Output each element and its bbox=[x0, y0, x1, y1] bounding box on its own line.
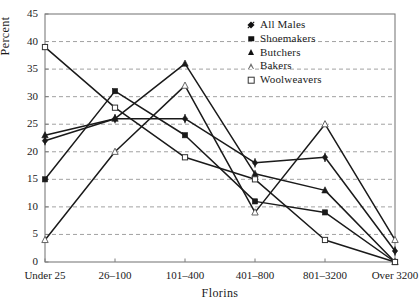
series-markers bbox=[42, 82, 398, 243]
open-square-icon bbox=[245, 74, 257, 86]
filled-triangle-icon bbox=[245, 46, 257, 58]
filled-diamond-icon bbox=[245, 19, 257, 31]
legend-item-label: Butchers bbox=[260, 46, 301, 60]
legend-item: Butchers bbox=[245, 46, 322, 60]
data-point-marker bbox=[42, 44, 47, 49]
data-point-marker bbox=[182, 60, 188, 66]
legend-item-label: Bakers bbox=[260, 59, 292, 73]
data-point-marker bbox=[322, 210, 327, 215]
legend-item: All Males bbox=[245, 18, 322, 32]
data-point-marker bbox=[322, 237, 327, 242]
data-point-marker bbox=[392, 259, 397, 264]
series-line bbox=[45, 86, 395, 240]
data-point-marker bbox=[182, 133, 187, 138]
data-point-marker bbox=[322, 121, 328, 127]
filled-square-icon bbox=[245, 33, 257, 45]
data-point-marker bbox=[252, 199, 257, 204]
data-point-marker bbox=[252, 177, 257, 182]
legend-item: Bakers bbox=[245, 59, 322, 73]
legend-item-label: All Males bbox=[260, 18, 306, 32]
series-line bbox=[45, 119, 395, 251]
chart-legend: All MalesShoemakersButchersBakersWoolwea… bbox=[245, 18, 322, 87]
legend-item-label: Woolweavers bbox=[260, 73, 322, 87]
legend-item: Shoemakers bbox=[245, 32, 322, 46]
data-point-marker bbox=[112, 105, 117, 110]
open-triangle-icon bbox=[245, 60, 257, 72]
series-line bbox=[45, 91, 395, 262]
legend-item: Woolweavers bbox=[245, 73, 322, 87]
data-point-marker bbox=[182, 82, 188, 88]
chart-figure: Percent Florins 051015202530354045 Under… bbox=[0, 0, 419, 307]
plot-canvas bbox=[0, 0, 419, 307]
legend-item-label: Shoemakers bbox=[260, 32, 316, 46]
data-point-marker bbox=[42, 177, 47, 182]
data-point-marker bbox=[112, 89, 117, 94]
series-markers bbox=[42, 44, 397, 264]
data-point-marker bbox=[182, 155, 187, 160]
